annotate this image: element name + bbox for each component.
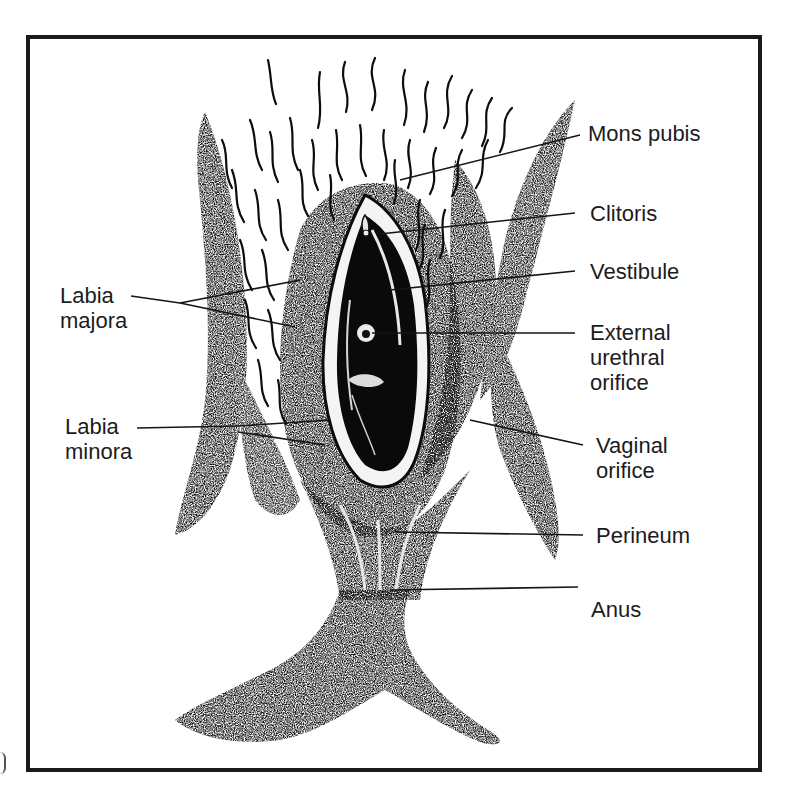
- vulva-illustration: [0, 0, 789, 791]
- label-vestibule: Vestibule: [590, 259, 679, 284]
- label-vaginal-orifice: Vaginal orifice: [596, 433, 668, 483]
- label-anus: Anus: [591, 597, 641, 622]
- label-perineum: Perineum: [596, 523, 690, 548]
- leader-labia-majora: [131, 296, 180, 303]
- label-labia-majora: Labia majora: [60, 283, 127, 333]
- label-external-urethral-orifice: External urethral orifice: [590, 320, 671, 395]
- label-clitoris: Clitoris: [590, 201, 657, 226]
- anal-region-shape: [175, 590, 500, 744]
- page-edge-mark: [0, 752, 6, 774]
- label-mons-pubis: Mons pubis: [588, 121, 701, 146]
- label-labia-minora: Labia minora: [65, 414, 132, 464]
